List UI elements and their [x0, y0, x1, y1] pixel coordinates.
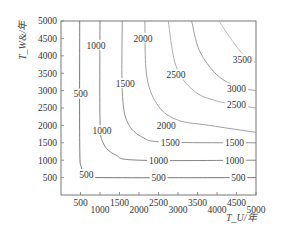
x-tick-label: 1000 — [91, 205, 110, 215]
x-tick-label: 2000 — [130, 205, 149, 215]
contour-line-2000 — [145, 21, 256, 132]
x-tick-label: 2500 — [149, 198, 168, 208]
y-tick-label: 4000 — [38, 51, 57, 61]
contour-label: 1500 — [225, 138, 244, 148]
y-tick-label: 3000 — [38, 86, 57, 96]
contour-label: 2500 — [167, 70, 186, 80]
contour-labels: 5005005005001000100010001000150015001500… — [72, 33, 254, 183]
contour-label: 1000 — [225, 156, 244, 166]
y-axis-title: T_W&/年 — [17, 20, 28, 60]
contour-label: 3000 — [227, 84, 246, 94]
y-tick-label: 3500 — [38, 69, 57, 79]
y-tick-label: 5000 — [38, 16, 57, 26]
y-tick-label: 4500 — [38, 34, 57, 44]
contour-label: 1500 — [161, 138, 180, 148]
contour-label: 500 — [79, 170, 94, 180]
x-tick-label: 4500 — [227, 198, 246, 208]
x-axis-title: T_U/年 — [226, 212, 258, 223]
y-tick-label: 2000 — [38, 121, 57, 131]
x-tick-label: 3500 — [188, 198, 207, 208]
contour-label: 500 — [231, 173, 246, 183]
contour-label: 1000 — [92, 126, 111, 136]
contour-chart: 5005005005001000100010001000150015001500… — [0, 0, 281, 236]
x-tick-label: 1500 — [110, 198, 129, 208]
x-tick-label: 3000 — [169, 205, 188, 215]
contour-label: 1000 — [149, 156, 168, 166]
y-tick-label: 2500 — [38, 103, 57, 113]
y-tick-label: 500 — [43, 173, 58, 183]
y-tick-label: 1500 — [38, 138, 57, 148]
contour-label: 2000 — [157, 121, 176, 131]
contour-label: 2500 — [227, 100, 246, 110]
contour-label: 500 — [73, 89, 88, 99]
contour-label: 1000 — [87, 41, 106, 51]
contour-label: 1500 — [116, 79, 135, 89]
x-tick-label: 4000 — [208, 205, 227, 215]
contour-label: 500 — [151, 173, 166, 183]
contour-label: 2000 — [133, 34, 152, 44]
x-tick-label: 500 — [73, 198, 88, 208]
y-tick-label: 1000 — [38, 156, 57, 166]
y-axis-ticks: 500100015002000250030003500400045005000 — [38, 16, 64, 183]
contour-label: 3500 — [233, 55, 252, 65]
